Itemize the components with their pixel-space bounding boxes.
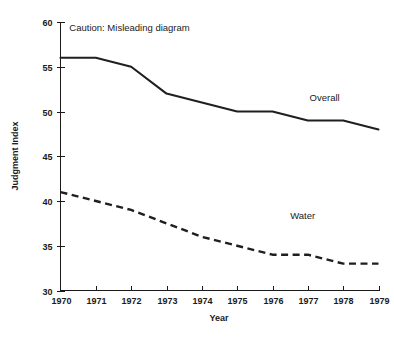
y-tick-label: 55 [42,63,52,73]
series-label-overall: Overall [310,92,340,103]
y-tick-label: 40 [42,197,52,207]
x-tick-label: 1974 [192,296,212,306]
x-axis-tick-labels: 1970197119721973197419751976197719781979 [51,296,389,306]
x-tick-label: 1973 [157,296,177,306]
y-tick-label: 50 [42,108,52,118]
line-chart-canvas: 30354045505560 1970197119721973197419751… [0,0,394,337]
y-axis-tick-labels: 30354045505560 [42,18,52,297]
x-tick-label: 1972 [121,296,141,306]
annotations-group: Caution: Misleading diagram [69,22,189,33]
series-label-water: Water [290,210,315,221]
x-tick-label: 1977 [298,296,318,306]
y-axis-title: Judgment Index [10,121,20,190]
axes-group [61,22,379,291]
y-tick-label: 60 [42,18,52,28]
x-axis-ticks [97,286,380,291]
chart-annotation: Caution: Misleading diagram [69,22,189,33]
x-tick-label: 1978 [333,296,353,306]
y-tick-label: 35 [42,242,52,252]
x-tick-label: 1971 [86,296,106,306]
chart-figure: 30354045505560 1970197119721973197419751… [0,0,394,337]
x-tick-label: 1976 [263,296,283,306]
series-line-water [61,192,379,264]
x-axis-title: Year [209,313,229,323]
series-paths-group [61,58,379,264]
y-tick-label: 45 [42,152,52,162]
x-tick-label: 1970 [51,296,71,306]
x-tick-label: 1975 [227,296,247,306]
series-inline-labels-group: OverallWater [290,92,340,221]
x-tick-label: 1979 [369,296,389,306]
